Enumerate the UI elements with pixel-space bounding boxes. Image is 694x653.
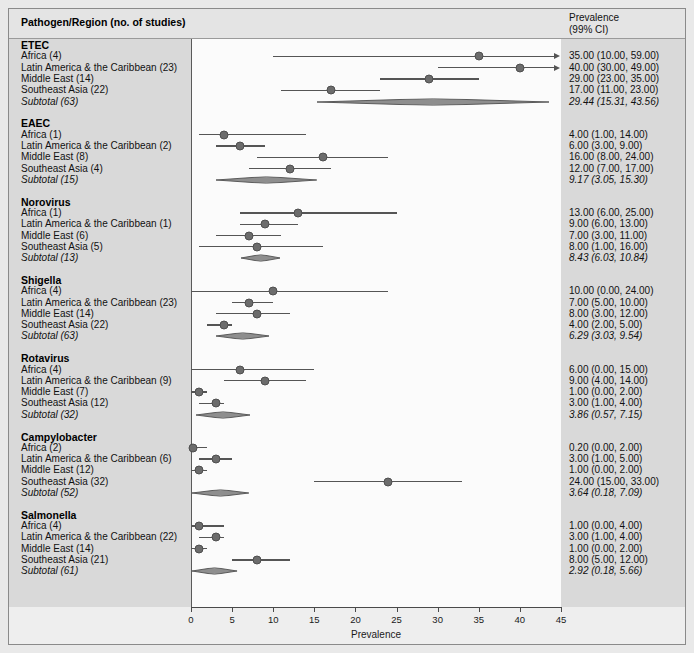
point-estimate-marker — [515, 63, 524, 72]
x-axis-tick-label: 35 — [473, 614, 484, 625]
point-estimate-marker — [244, 298, 253, 307]
row-label: Middle East (12) — [21, 464, 94, 475]
x-axis-tick-label: 30 — [432, 614, 443, 625]
point-estimate-marker — [211, 455, 220, 464]
confidence-interval-line — [240, 212, 396, 213]
pooled-estimate-diamond — [192, 568, 237, 575]
row-label: Southeast Asia (12) — [21, 397, 108, 408]
row-label: Latin America & the Caribbean (2) — [21, 140, 172, 151]
header-prevalence-line1: Prevalence — [569, 12, 619, 24]
point-estimate-marker — [384, 477, 393, 486]
row-value: 3.00 (1.00, 4.00) — [569, 397, 642, 408]
confidence-interval-line — [273, 56, 554, 57]
row-label-subtotal: Subtotal (32) — [21, 409, 78, 420]
confidence-interval-line — [191, 369, 314, 370]
row-label: Africa (4) — [21, 285, 62, 296]
group-title-shigella: Shigella — [21, 274, 61, 286]
row-value: 10.00 (0.00, 24.00) — [569, 285, 654, 296]
row-label: Africa (4) — [21, 364, 62, 375]
x-axis-title: Prevalence — [191, 629, 561, 640]
row-value: 35.00 (10.00, 59.00) — [569, 50, 659, 61]
confidence-interval-line — [191, 291, 388, 292]
x-axis-tick — [314, 607, 315, 612]
row-value: 12.00 (7.00, 17.00) — [569, 163, 654, 174]
row-label-subtotal: Subtotal (63) — [21, 96, 78, 107]
row-value: 7.00 (3.00, 11.00) — [569, 230, 647, 241]
point-estimate-marker — [425, 74, 434, 83]
row-value-subtotal: 2.92 (0.18, 5.66) — [569, 565, 642, 576]
row-value: 29.00 (23.00, 35.00) — [569, 73, 659, 84]
row-value-subtotal: 9.17 (3.05, 15.30) — [569, 174, 648, 185]
ci-truncation-arrow — [554, 65, 560, 71]
group-title-norovirus: Norovirus — [21, 196, 71, 208]
row-label: Middle East (8) — [21, 151, 88, 162]
x-axis-tick — [520, 607, 521, 612]
point-estimate-marker — [195, 466, 204, 475]
row-label-subtotal: Subtotal (61) — [21, 565, 78, 576]
row-label: Middle East (14) — [21, 73, 94, 84]
point-estimate-marker — [252, 556, 261, 565]
row-label-subtotal: Subtotal (13) — [21, 252, 78, 263]
point-estimate-marker — [252, 309, 261, 318]
point-estimate-marker — [474, 52, 483, 61]
row-value: 13.00 (6.00, 25.00) — [569, 207, 654, 218]
row-value: 6.00 (3.00, 9.00) — [569, 140, 642, 151]
row-label: Africa (1) — [21, 207, 62, 218]
row-label: Latin America & the Caribbean (23) — [21, 62, 177, 73]
point-estimate-marker — [318, 153, 327, 162]
pooled-estimate-diamond — [317, 98, 549, 105]
row-label: Southeast Asia (21) — [21, 554, 108, 565]
point-estimate-marker — [219, 130, 228, 139]
row-value: 8.00 (5.00, 12.00) — [569, 554, 648, 565]
point-estimate-marker — [236, 365, 245, 374]
point-estimate-marker — [195, 522, 204, 531]
row-value-subtotal: 29.44 (15.31, 43.56) — [569, 96, 659, 107]
ci-truncation-arrow — [554, 53, 560, 59]
pooled-estimate-diamond — [216, 333, 270, 340]
point-estimate-marker — [195, 544, 204, 553]
group-title-etec: ETEC — [21, 39, 49, 51]
row-value: 1.00 (0.00, 2.00) — [569, 464, 642, 475]
confidence-interval-line — [438, 67, 554, 68]
forest-plot-figure: Pathogen/Region (no. of studies) Prevale… — [8, 8, 686, 645]
row-label: Africa (2) — [21, 442, 62, 453]
x-axis-tick-label: 0 — [188, 614, 193, 625]
row-label: Middle East (14) — [21, 308, 94, 319]
row-label: Southeast Asia (5) — [21, 241, 103, 252]
point-estimate-marker — [293, 208, 302, 217]
row-value: 3.00 (1.00, 5.00) — [569, 453, 642, 464]
x-axis-tick — [479, 607, 480, 612]
row-label: Africa (4) — [21, 520, 62, 531]
x-axis-line — [191, 607, 561, 608]
pooled-estimate-diamond — [196, 411, 250, 418]
row-label: Southeast Asia (22) — [21, 84, 108, 95]
row-label-subtotal: Subtotal (15) — [21, 174, 78, 185]
row-value: 4.00 (1.00, 14.00) — [569, 129, 648, 140]
x-axis-tick — [273, 607, 274, 612]
row-value: 24.00 (15.00, 33.00) — [569, 476, 659, 487]
x-axis-tick-label: 10 — [268, 614, 279, 625]
row-label: Middle East (7) — [21, 386, 88, 397]
row-label: Latin America & the Caribbean (6) — [21, 453, 172, 464]
x-axis-tick-label: 40 — [515, 614, 526, 625]
pooled-estimate-diamond — [241, 255, 281, 262]
header-pathogen-region: Pathogen/Region (no. of studies) — [21, 16, 186, 28]
x-axis-tick-label: 45 — [556, 614, 567, 625]
row-value: 0.20 (0.00, 2.00) — [569, 442, 642, 453]
x-axis-tick-label: 20 — [350, 614, 361, 625]
header-prevalence-line2: (99% CI) — [569, 24, 619, 36]
point-estimate-marker — [261, 376, 270, 385]
row-label-subtotal: Subtotal (52) — [21, 487, 78, 498]
x-axis-tick — [355, 607, 356, 612]
row-value: 9.00 (4.00, 14.00) — [569, 375, 648, 386]
row-value: 40.00 (30.00, 49.00) — [569, 62, 659, 73]
point-estimate-marker — [219, 321, 228, 330]
row-label: Middle East (6) — [21, 230, 88, 241]
row-label: Southeast Asia (22) — [21, 319, 108, 330]
group-title-campylobacter: Campylobacter — [21, 431, 97, 443]
point-estimate-marker — [244, 231, 253, 240]
pooled-estimate-diamond — [192, 490, 249, 497]
row-value: 3.00 (1.00, 4.00) — [569, 531, 642, 542]
row-value: 4.00 (2.00, 5.00) — [569, 319, 642, 330]
point-estimate-marker — [326, 86, 335, 95]
